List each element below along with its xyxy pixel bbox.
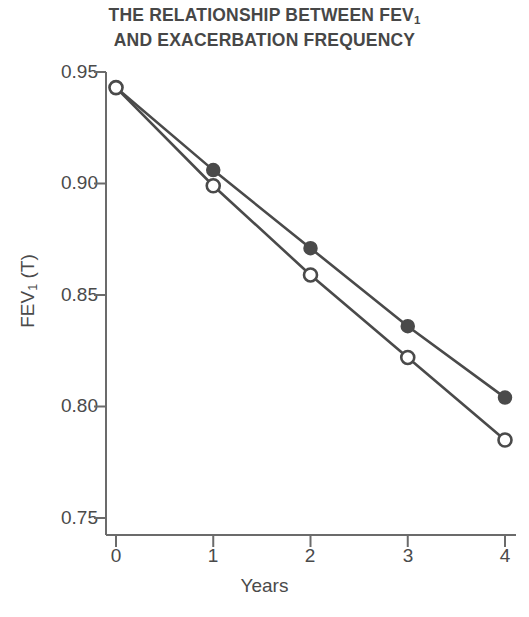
data-point-frequent-exacerbations-4 xyxy=(499,433,512,446)
data-point-frequent-exacerbations-3 xyxy=(401,351,414,364)
data-point-frequent-exacerbations-0 xyxy=(110,81,123,94)
x-axis-ticks xyxy=(116,535,505,547)
data-point-infrequent-exacerbations-1 xyxy=(207,164,220,177)
chart-figure: THE RELATIONSHIP BETWEEN FEV1 AND EXACER… xyxy=(0,0,529,617)
series-infrequent-exacerbations xyxy=(110,81,512,404)
data-point-frequent-exacerbations-1 xyxy=(207,179,220,192)
data-point-frequent-exacerbations-2 xyxy=(304,268,317,281)
series-line-frequent-exacerbations xyxy=(116,88,505,440)
data-series-layer xyxy=(110,81,512,446)
data-point-infrequent-exacerbations-4 xyxy=(499,391,512,404)
data-point-infrequent-exacerbations-2 xyxy=(304,242,317,255)
data-point-infrequent-exacerbations-3 xyxy=(401,320,414,333)
series-frequent-exacerbations xyxy=(110,81,512,446)
y-axis-ticks xyxy=(94,72,106,518)
plot-area xyxy=(0,0,529,617)
axis-lines xyxy=(106,72,516,535)
